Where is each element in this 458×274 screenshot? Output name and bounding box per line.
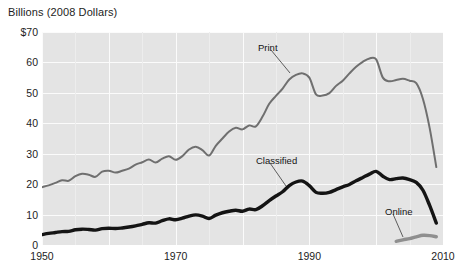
advertising-revenue-chart: Billions (2008 Dollars) $706050403020100…	[0, 0, 458, 274]
x-tick-label-1990: 1990	[298, 250, 321, 262]
x-tick-label-2010: 2010	[431, 250, 454, 262]
x-tick-label-1970: 1970	[164, 250, 187, 262]
x-tick-label-1950: 1950	[30, 250, 53, 262]
x-axis: 1950197019902010	[0, 0, 458, 274]
